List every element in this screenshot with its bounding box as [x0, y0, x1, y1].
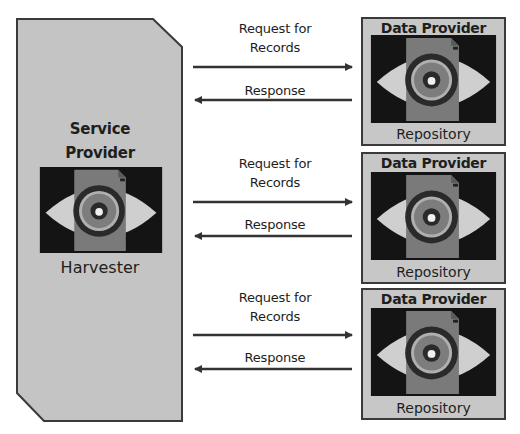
data-provider-box-1: Data Provider Repository	[361, 17, 506, 146]
data-provider-subtitle: Repository	[363, 127, 504, 141]
data-provider-title: Data Provider	[363, 21, 504, 35]
service-provider-title-line1: Service	[17, 122, 183, 137]
data-provider-subtitle: Repository	[363, 265, 504, 279]
eye-document-icon	[370, 172, 497, 260]
request-label-1-line2: Records	[200, 41, 350, 54]
data-provider-subtitle: Repository	[363, 401, 504, 415]
response-label-3: Response	[200, 351, 350, 364]
request-label-2-line1: Request for	[200, 157, 350, 170]
data-provider-box-3: Data Provider Repository	[361, 288, 506, 420]
request-label-3-line1: Request for	[200, 291, 350, 304]
eye-document-icon	[38, 167, 164, 253]
data-provider-title: Data Provider	[363, 292, 504, 306]
data-provider-title: Data Provider	[363, 156, 504, 170]
request-label-2-line2: Records	[200, 176, 350, 189]
request-label-3-line2: Records	[200, 310, 350, 323]
service-provider-subtitle: Harvester	[17, 260, 183, 276]
response-label-2: Response	[200, 218, 350, 231]
request-label-1-line1: Request for	[200, 22, 350, 35]
eye-document-icon	[370, 308, 497, 396]
service-provider-title-line2: Provider	[17, 146, 183, 161]
eye-document-icon	[370, 35, 497, 123]
data-provider-box-2: Data Provider Repository	[361, 152, 506, 284]
response-label-1: Response	[200, 84, 350, 97]
